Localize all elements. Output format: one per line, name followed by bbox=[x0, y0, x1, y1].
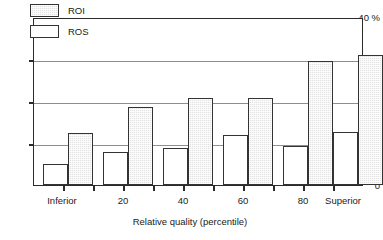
bar-ros-group5 bbox=[283, 146, 308, 185]
x-tick-mark-5 bbox=[183, 186, 185, 191]
bar-ros-inferior bbox=[43, 164, 68, 185]
bar-roi-group5 bbox=[308, 61, 333, 185]
x-tick-mark-7 bbox=[243, 186, 245, 191]
x-tick-mark-4 bbox=[153, 186, 155, 191]
bar-roi-group3 bbox=[188, 98, 213, 185]
legend-label-roi: ROI bbox=[68, 6, 85, 16]
bar-ros-group2 bbox=[103, 152, 128, 185]
legend-swatch-roi-icon bbox=[30, 4, 59, 17]
bar-roi-superior bbox=[358, 55, 383, 185]
x-tick-mark-10 bbox=[333, 186, 335, 191]
x-tick-mark-8 bbox=[273, 186, 275, 191]
x-tick-mark-1 bbox=[63, 186, 65, 191]
chart-legend: ROI ROS bbox=[30, 2, 89, 44]
x-tick-mark-2 bbox=[93, 186, 95, 191]
bar-ros-group4 bbox=[223, 135, 248, 185]
legend-item-roi: ROI bbox=[30, 2, 89, 19]
x-tick-mark-6 bbox=[213, 186, 215, 191]
bar-roi-group4 bbox=[248, 98, 273, 185]
x-axis-title: Relative quality (percentile) bbox=[0, 216, 380, 227]
bar-ros-group3 bbox=[163, 148, 188, 185]
x-tick-label-60: 60 bbox=[238, 195, 249, 206]
x-tick-label-40: 40 bbox=[178, 195, 189, 206]
x-tick-label-80: 80 bbox=[298, 195, 309, 206]
legend-item-ros: ROS bbox=[30, 23, 89, 40]
bar-ros-group6 bbox=[333, 132, 358, 185]
legend-swatch-ros-icon bbox=[30, 25, 59, 38]
x-tick-mark-9 bbox=[303, 186, 305, 191]
x-tick-mark-3 bbox=[123, 186, 125, 191]
x-tick-label-20: 20 bbox=[118, 195, 129, 206]
legend-label-ros: ROS bbox=[68, 27, 89, 37]
x-tick-label-inferior: Inferior bbox=[47, 195, 77, 206]
bar-roi-group2 bbox=[128, 107, 153, 185]
bar-roi-inferior bbox=[68, 133, 93, 185]
x-tick-label-superior: Superior bbox=[325, 195, 361, 206]
